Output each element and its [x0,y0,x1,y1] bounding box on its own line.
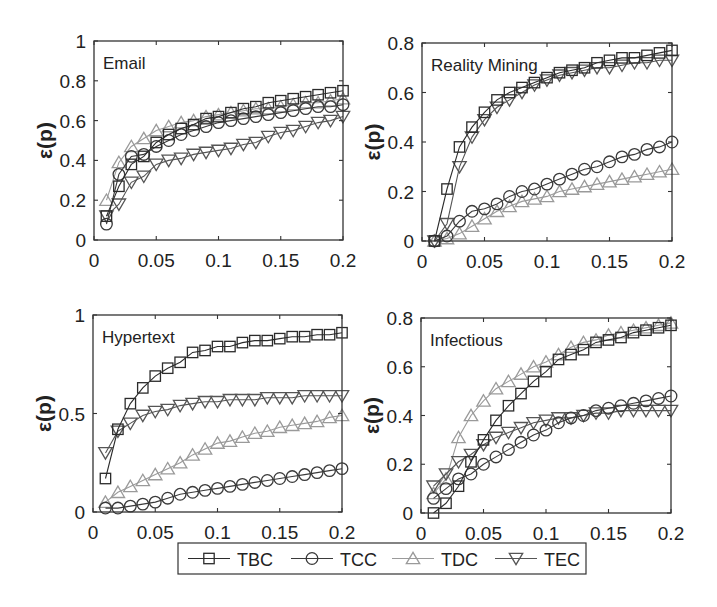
y-axis-label: ε(p) [32,395,55,432]
figure-canvas: 00.050.10.150.200.20.40.60.81ε(p)Email 0… [0,0,717,607]
x-tick-label: 0.05 [137,522,174,543]
x-tick-label: 0.1 [205,250,231,271]
series-tdc [99,409,349,507]
y-tick-label: 0.8 [60,71,86,92]
x-tick-label: 0.2 [659,251,685,272]
y-tick-label: 0.5 [59,404,85,425]
figure: 00.050.10.150.200.20.40.60.81ε(p)Email 0… [0,0,717,607]
x-tick-label: 0.1 [533,523,559,544]
series-tdc [428,163,679,246]
y-tick-label: 0 [403,231,414,252]
y-tick-label: 1 [74,305,85,326]
panel-title: Hypertext [102,328,175,347]
tec-marker [99,448,112,459]
series-line [106,333,343,479]
y-tick-label: 0.8 [387,308,413,329]
x-tick-label: 0.15 [262,250,299,271]
x-tick-label: 0 [88,522,99,543]
y-axis-label: ε(p) [33,122,56,159]
y-tick-label: 0.2 [60,190,86,211]
series-line [107,117,344,217]
x-tick-label: 0.2 [330,250,356,271]
y-tick-label: 0.8 [388,33,414,54]
panel-infectious: 00.050.10.150.200.20.40.60.8ε(p)Infectio… [360,308,684,544]
panel-hypertext: 00.050.10.150.200.51ε(p)Hypertext [32,305,355,543]
series-line [435,142,673,241]
y-tick-label: 0.6 [388,83,414,104]
x-tick-label: 0.1 [204,522,230,543]
series-tcc [100,463,348,514]
x-tick-label: 0 [89,250,100,271]
x-tick-label: 0.05 [465,523,502,544]
y-tick-label: 0.6 [60,111,86,132]
y-tick-label: 0.2 [388,182,414,203]
y-tick-label: 0 [74,502,85,523]
y-axis-label: ε(p) [361,124,384,161]
x-tick-label: 0.05 [138,250,175,271]
x-tick-label: 0 [417,251,428,272]
tbc-marker [100,473,110,483]
legend-label: TCC [340,550,377,570]
legend-label: TDC [441,550,478,570]
y-tick-label: 0.4 [388,132,415,153]
y-tick-label: 0 [402,503,413,524]
y-axis-label: ε(p) [360,397,383,434]
y-tick-label: 0.6 [387,357,413,378]
x-tick-label: 0.2 [658,523,684,544]
legend: TBCTCCTDCTEC [178,543,586,574]
x-tick-label: 0 [416,523,427,544]
x-tick-label: 0.2 [329,522,355,543]
x-tick-label: 0.15 [591,251,628,272]
x-tick-label: 0.1 [534,251,560,272]
y-tick-label: 0.2 [387,454,413,475]
series-line [107,91,344,216]
y-tick-label: 0.4 [60,150,87,171]
y-tick-label: 1 [75,31,86,52]
panel-title: Infectious [430,331,503,350]
panel-email: 00.050.10.150.200.20.40.60.81ε(p)Email [33,31,356,271]
legend-label: TEC [544,550,580,570]
series-tbc [100,328,347,484]
x-tick-label: 0.15 [590,523,627,544]
series-line [435,60,673,241]
panel-reality-mining: 00.050.10.150.200.20.40.60.8ε(p)Reality … [361,33,685,272]
x-tick-label: 0.05 [466,251,503,272]
x-tick-label: 0.15 [261,522,298,543]
series-tec [100,111,350,222]
y-tick-label: 0 [75,230,86,251]
panel-title: Email [103,54,146,73]
legend-label: TBC [237,550,273,570]
y-tick-label: 0.4 [387,406,414,427]
panel-title: Reality Mining [431,56,538,75]
